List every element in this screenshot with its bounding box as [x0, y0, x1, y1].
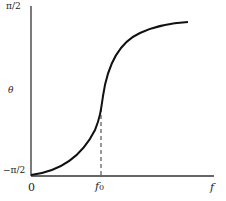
- x-tick-f0-subscript: 0: [99, 183, 104, 192]
- phase-chart: [0, 0, 226, 201]
- x-tick-f0: f0: [95, 180, 104, 193]
- y-tick-top: π/2: [6, 1, 21, 11]
- y-axis-label: θ: [8, 85, 13, 95]
- theta-curve: [31, 22, 188, 175]
- x-axis-label: f: [210, 181, 214, 194]
- y-tick-bottom: −π/2: [3, 165, 25, 175]
- x-tick-zero: 0: [28, 181, 35, 194]
